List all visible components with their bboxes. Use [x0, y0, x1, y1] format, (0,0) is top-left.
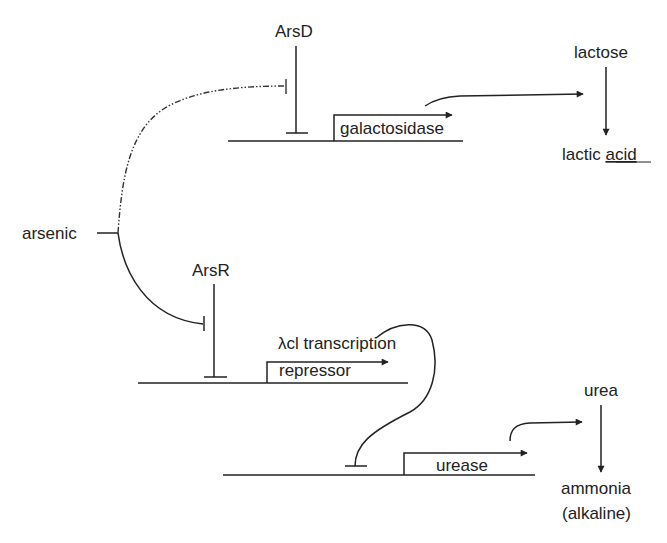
arsenic-to-arsr-inhibition-curve [118, 233, 203, 324]
lactose-pathway: lactose lactic acid [562, 43, 651, 164]
arsenic-node: arsenic [22, 79, 286, 331]
urea-pathway: urea ammonia (alkaline) [561, 381, 631, 523]
ammonia-label: ammonia [561, 479, 631, 498]
arsr-label: ArsR [192, 261, 230, 280]
lactose-label: lactose [574, 43, 628, 62]
urea-label: urea [584, 381, 619, 400]
galactosidase-activation-arrow-icon [425, 94, 583, 106]
acid-word: acid [605, 145, 636, 164]
lambda-repressor-gene: λcl transcription repressor [138, 334, 408, 383]
alkaline-label: (alkaline) [562, 504, 631, 523]
galactosidase-gene: galactosidase [228, 115, 463, 141]
arsd-node: ArsD [275, 22, 313, 133]
galactosidase-label: galactosidase [340, 119, 444, 138]
arsd-label: ArsD [275, 22, 313, 41]
arsr-node: ArsR [192, 261, 230, 377]
genetic-circuit-diagram: ArsD galactosidase lactose lactic acid a… [0, 0, 667, 543]
lactic-acid-label: lactic acid [562, 145, 637, 164]
arsenic-label: arsenic [22, 224, 77, 243]
lactic-word: lactic [562, 145, 601, 164]
urease-label: urease [436, 456, 488, 475]
urease-activation-arrow-icon [510, 422, 582, 441]
urease-gene: urease [223, 453, 535, 475]
repressor-label: repressor [279, 361, 351, 380]
arsenic-to-arsd-inhibition-curve [118, 86, 285, 233]
